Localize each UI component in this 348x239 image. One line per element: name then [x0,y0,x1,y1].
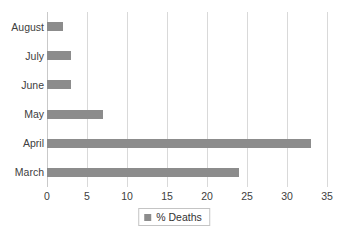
bar [47,139,311,148]
x-axis-label: 15 [161,190,173,203]
legend-entry-label: % Deaths [156,211,202,223]
y-axis-label: August [0,21,44,33]
bar [47,51,71,60]
bar-row [47,100,327,129]
x-axis-tick-labels: 05101520253035 [47,190,327,204]
x-axis-label: 0 [44,190,50,203]
bar-row [47,12,327,41]
x-axis-label: 10 [121,190,133,203]
bar [47,80,71,89]
y-axis-label: March [0,166,44,178]
bar-chart: MarchAprilMayJuneJulyAugust 051015202530… [0,0,348,239]
x-axis-label: 30 [281,190,293,203]
gridline [327,12,328,187]
legend-swatch-icon [144,214,151,221]
bar-row [47,41,327,70]
bar [47,110,103,119]
bar [47,22,63,31]
x-axis-label: 20 [201,190,213,203]
bar-row [47,158,327,187]
bar [47,168,239,177]
chart-legend: % Deaths [138,208,210,226]
bar-row [47,129,327,158]
x-axis-label: 25 [241,190,253,203]
y-axis-label: July [0,50,44,62]
y-axis-label: June [0,79,44,91]
x-axis-label: 5 [84,190,90,203]
y-axis-label: April [0,137,44,149]
plot-area [47,12,327,187]
bar-row [47,70,327,99]
y-axis-category-labels: MarchAprilMayJuneJulyAugust [0,12,44,187]
x-axis-label: 35 [321,190,333,203]
y-axis-label: May [0,108,44,120]
